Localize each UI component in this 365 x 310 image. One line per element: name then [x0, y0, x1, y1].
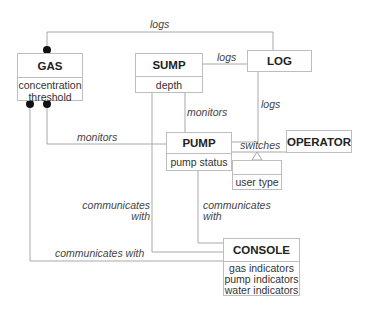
class-name: PUMP: [167, 133, 231, 153]
association-label-pump-log: logs: [261, 99, 280, 110]
class-name: LOG: [248, 51, 311, 71]
attribute: threshold: [18, 91, 82, 103]
pump-log-line: [232, 72, 258, 142]
class-name: [233, 161, 281, 174]
association-label-gas-console: communicates with: [55, 248, 144, 259]
class-attributes: concentration threshold: [18, 77, 82, 101]
association-label-sump-pump: monitors: [187, 107, 227, 118]
attribute: depth: [136, 79, 202, 91]
association-label-gas-pump: monitors: [77, 132, 117, 143]
association-label-sump-log: logs: [217, 52, 236, 63]
class-attributes: depth: [136, 76, 202, 92]
gas-console-line: [30, 104, 223, 261]
class-name: CONSOLE: [224, 239, 299, 261]
class-attributes: pump status: [167, 153, 231, 170]
attribute: water indicators: [224, 285, 299, 296]
class-name: SUMP: [136, 54, 202, 76]
attribute: concentration: [18, 79, 82, 91]
class-name: OPERATOR: [287, 131, 351, 152]
attribute: pump status: [167, 156, 231, 168]
association-label-sump-console: communicates with: [80, 200, 150, 222]
gas-log-line: [47, 32, 273, 50]
association-label-gas-log: logs: [150, 19, 169, 30]
class-attributes: gas indicators pump indicators water ind…: [224, 261, 299, 295]
association-label-pump-operator: switches: [240, 140, 280, 151]
class-name: GAS: [18, 54, 82, 77]
class-user-type[interactable]: user type: [232, 160, 282, 190]
generalization-triangle: [252, 152, 262, 160]
class-console[interactable]: CONSOLE gas indicators pump indicators w…: [223, 238, 300, 296]
association-label-pump-console: communicates with: [203, 200, 271, 222]
class-attributes: user type: [233, 174, 281, 189]
attribute: user type: [233, 176, 281, 188]
class-sump[interactable]: SUMP depth: [135, 53, 203, 93]
class-operator[interactable]: OPERATOR: [286, 130, 352, 153]
class-gas[interactable]: GAS concentration threshold: [17, 53, 83, 101]
class-log[interactable]: LOG: [247, 50, 312, 72]
class-pump[interactable]: PUMP pump status: [166, 132, 232, 171]
